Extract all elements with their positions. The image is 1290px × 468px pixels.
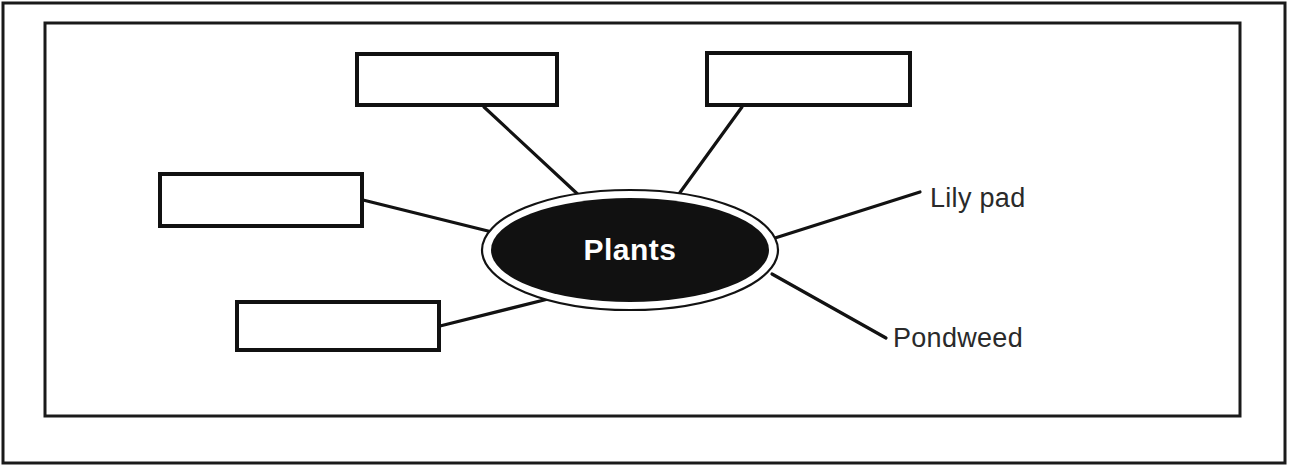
central-node[interactable]: Plants [482, 190, 778, 310]
answer-box-top-right[interactable] [707, 53, 910, 105]
connector-line-top-right [676, 107, 742, 198]
connector-line-pondweed [772, 274, 886, 338]
answer-boxes-group [160, 53, 910, 350]
answer-box-top-left[interactable] [357, 54, 557, 105]
connector-line-top-left [484, 107, 584, 200]
answer-box-bottom-left[interactable] [237, 302, 439, 350]
leaf-label-lily-pad: Lily pad [930, 183, 1025, 213]
connector-line-bottom-left [440, 297, 556, 326]
connector-line-lily-pad [775, 192, 920, 238]
leaf-labels-group: Lily pad Pondweed [893, 183, 1025, 353]
central-node-label: Plants [583, 233, 676, 266]
concept-map-diagram: Plants Lily pad Pondweed [0, 0, 1290, 468]
answer-box-left[interactable] [160, 174, 362, 226]
leaf-label-pondweed: Pondweed [893, 323, 1023, 353]
connector-line-left [363, 200, 492, 232]
worksheet-page: Plants Lily pad Pondweed [0, 0, 1290, 468]
